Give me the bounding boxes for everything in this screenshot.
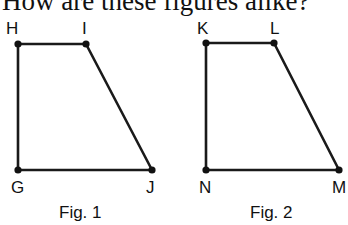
- vertex-n-label: N: [199, 178, 211, 197]
- vertex-i-point: [82, 40, 89, 47]
- vertex-g-point: [14, 166, 21, 173]
- vertex-k-point: [202, 39, 209, 46]
- vertex-h-point: [14, 40, 21, 47]
- trapezoid-klmn: [206, 43, 339, 170]
- vertex-k-label: K: [197, 19, 209, 38]
- vertex-j-label: J: [146, 178, 155, 197]
- vertex-j-point: [148, 166, 155, 173]
- vertex-m-point: [335, 166, 342, 173]
- vertex-h-label: H: [6, 19, 18, 38]
- vertex-l-point: [270, 39, 277, 46]
- figure-2-caption: Fig. 2: [250, 203, 293, 222]
- figures-diagram: H I J G Fig. 1 K L M N Fig. 2: [0, 0, 348, 225]
- figure-1-caption: Fig. 1: [59, 203, 102, 222]
- vertex-g-label: G: [11, 178, 24, 197]
- vertex-n-point: [202, 166, 209, 173]
- figure-2: K L M N Fig. 2: [197, 19, 346, 222]
- figure-1: H I J G Fig. 1: [6, 19, 156, 222]
- vertex-m-label: M: [332, 178, 346, 197]
- vertex-i-label: I: [82, 19, 87, 38]
- vertex-l-label: L: [270, 19, 279, 38]
- trapezoid-ghij: [18, 44, 152, 170]
